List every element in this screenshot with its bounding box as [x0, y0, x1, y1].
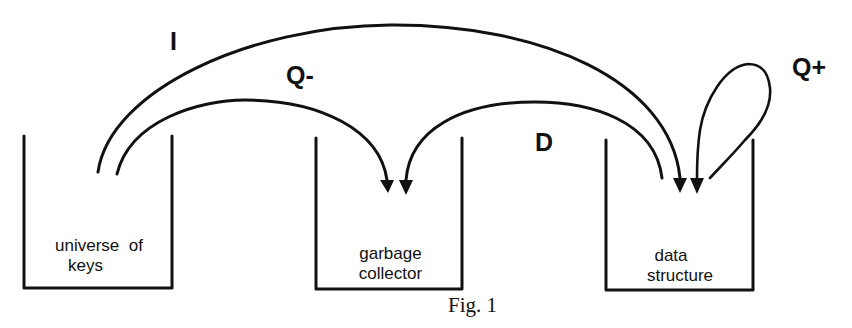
- arrow-Q-plus: [697, 64, 770, 178]
- figure: I Q- D Q+ universe of keys garbage colle…: [0, 0, 852, 328]
- label-op-Q-plus: Q+: [792, 55, 826, 80]
- arrow-Q-minus: [117, 100, 387, 180]
- label-universe-of-keys: universe of keys: [34, 236, 164, 276]
- label-garbage-line1: garbage: [328, 244, 453, 264]
- arrow-I: [98, 25, 680, 178]
- label-garbage-line2: collector: [328, 264, 453, 284]
- arrow-D: [406, 102, 662, 180]
- label-universe-line1: universe of: [34, 236, 164, 256]
- arrowhead-Q-minus: [380, 180, 394, 193]
- label-data-line1: data: [620, 246, 740, 266]
- arrowhead-D: [399, 180, 413, 195]
- label-op-Q-minus: Q-: [286, 63, 314, 88]
- arrowhead-Q-plus: [690, 178, 704, 194]
- label-universe-line2: keys: [34, 256, 164, 276]
- label-garbage-collector: garbage collector: [328, 244, 453, 284]
- label-data-line2: structure: [620, 266, 740, 286]
- label-data-structure: data structure: [620, 246, 740, 286]
- label-op-I: I: [170, 29, 177, 54]
- label-op-D: D: [535, 130, 553, 155]
- arrowhead-I: [673, 178, 687, 193]
- figure-caption: Fig. 1: [448, 293, 497, 318]
